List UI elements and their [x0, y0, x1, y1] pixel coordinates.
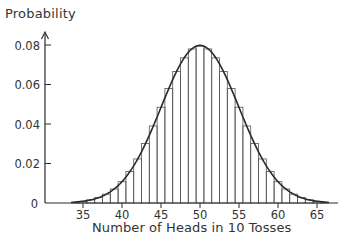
x-tick-label: 50	[193, 208, 208, 222]
y-tick-label: 0.02	[14, 157, 40, 171]
histogram-bar	[243, 126, 251, 203]
normal-curve	[71, 45, 328, 202]
histogram-bar	[227, 88, 235, 203]
y-tick-label: 0.06	[14, 78, 40, 92]
histogram-bar	[142, 144, 150, 203]
x-tick-label: 60	[271, 208, 286, 222]
histogram-bar	[181, 58, 189, 203]
histogram-bar	[220, 71, 228, 203]
histogram-bar	[235, 107, 243, 203]
x-tick-label: 65	[310, 208, 325, 222]
y-tick-label: 0	[31, 197, 38, 211]
histogram-bar	[251, 144, 259, 203]
y-tick-label: 0.04	[14, 118, 40, 132]
histogram-bars	[71, 46, 328, 203]
histogram-bar	[188, 49, 196, 203]
x-tick-label: 45	[154, 208, 169, 222]
histogram-bar	[196, 46, 204, 203]
axes	[42, 32, 339, 208]
x-tick-label: 55	[232, 208, 247, 222]
histogram-bar	[173, 71, 181, 203]
histogram-chart: 00.020.040.060.0835404550556065	[0, 0, 347, 246]
histogram-bar	[259, 159, 267, 203]
x-tick-label: 40	[115, 208, 130, 222]
histogram-bar	[157, 107, 165, 203]
x-tick-label: 35	[76, 208, 91, 222]
tick-labels: 00.020.040.060.0835404550556065	[14, 39, 324, 223]
histogram-bar	[212, 58, 220, 203]
histogram-bar	[165, 88, 173, 203]
y-tick-label: 0.08	[14, 39, 40, 53]
histogram-bar	[204, 49, 212, 203]
histogram-bar	[134, 159, 142, 203]
histogram-bar	[149, 126, 157, 203]
